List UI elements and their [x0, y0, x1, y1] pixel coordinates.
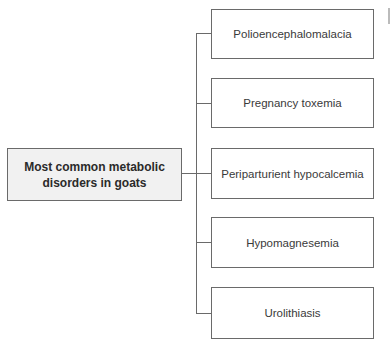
- child-label: Periparturient hypocalcemia: [221, 168, 364, 180]
- child-node-pregnancy-toxemia: Pregnancy toxemia: [211, 78, 374, 128]
- child-label: Hypomagnesemia: [246, 237, 339, 249]
- child-label: Polioencephalomalacia: [233, 28, 351, 40]
- branch-connector-5: [196, 313, 211, 314]
- root-connector: [181, 173, 197, 174]
- branch-connector-4: [196, 242, 211, 243]
- child-node-urolithiasis: Urolithiasis: [211, 287, 374, 339]
- branch-connector-3: [196, 173, 211, 174]
- root-node: Most common metabolic disorders in goats: [7, 148, 182, 201]
- root-label-line2: disorders in goats: [24, 175, 165, 191]
- child-label: Urolithiasis: [264, 307, 320, 319]
- branch-connector-1: [196, 33, 211, 34]
- child-node-hypomagnesemia: Hypomagnesemia: [211, 217, 374, 268]
- branch-connector-2: [196, 103, 211, 104]
- child-node-polioencephalomalacia: Polioencephalomalacia: [211, 9, 374, 59]
- cropped-edge-mark: [388, 8, 390, 24]
- child-label: Pregnancy toxemia: [243, 97, 341, 109]
- root-label-line1: Most common metabolic: [24, 159, 165, 175]
- child-node-periparturient-hypocalcemia: Periparturient hypocalcemia: [211, 148, 374, 199]
